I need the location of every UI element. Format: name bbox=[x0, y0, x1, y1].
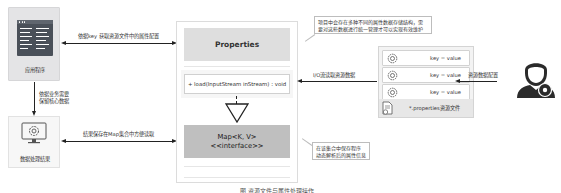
application-label: 应用程序 bbox=[9, 67, 61, 74]
structure-note-line-2: 要对这些数据进行统一管理才可以实现有效维护 bbox=[318, 26, 428, 33]
arrow-head-left bbox=[455, 79, 460, 83]
data-result-box: 数据处理结果 bbox=[8, 116, 60, 168]
config-arrow bbox=[459, 81, 497, 82]
divider bbox=[184, 66, 290, 67]
key-value-text: key = value bbox=[430, 89, 461, 95]
gear-icon bbox=[387, 53, 398, 64]
figure-caption: 图 资源文件与属性处理操作 bbox=[240, 186, 314, 193]
store-in-map-arrow bbox=[65, 141, 173, 142]
arrow-head-left bbox=[297, 79, 302, 83]
application-window-icon bbox=[17, 20, 53, 56]
properties-class-title: Properties bbox=[184, 28, 290, 61]
structure-note-line-1: 项目中会存在多种不同的属性数据存储结构，需 bbox=[318, 19, 428, 26]
divider bbox=[184, 166, 290, 167]
key-lookup-label: 依据key 获取资源文件中的属性配置 bbox=[78, 33, 159, 40]
load-method-box: + load(InputStream inStream) : void bbox=[184, 74, 290, 94]
divider bbox=[184, 177, 290, 178]
io-read-arrow bbox=[301, 81, 377, 82]
retain-core-data-label-1: 依据业务需要 bbox=[39, 91, 69, 98]
map-note-line-1: 在该集合中保存程序 bbox=[316, 145, 366, 152]
user-gear-icon bbox=[515, 56, 557, 98]
config-label: 资源数据配置 bbox=[468, 72, 498, 79]
file-gear-icon bbox=[382, 101, 393, 115]
properties-file-label: *.properties资源文件 bbox=[409, 104, 460, 111]
store-in-map-label: 结果保存在Map集合中方便读取 bbox=[83, 131, 154, 138]
key-value-text: key = value bbox=[430, 72, 461, 78]
map-note-line-2: 动态解析后的属性信息 bbox=[316, 152, 366, 159]
key-value-text: key = value bbox=[430, 55, 461, 61]
map-interface-header: Map<K, V> <<interface>> bbox=[184, 125, 290, 158]
key-value-row: key = value bbox=[382, 84, 470, 100]
map-interface-title: Map<K, V> bbox=[184, 125, 290, 142]
flow-arrow-down bbox=[34, 82, 35, 112]
implements-triangle-icon bbox=[225, 103, 249, 123]
io-read-label: I/O流读取资源数据 bbox=[313, 72, 355, 79]
map-interface-stereotype: <<interface>> bbox=[184, 142, 290, 151]
key-value-row: key = value bbox=[382, 50, 470, 66]
gear-icon bbox=[387, 70, 398, 81]
data-result-label: 数据处理结果 bbox=[9, 156, 61, 163]
arrow-head-left bbox=[61, 139, 66, 143]
monitor-gear-icon bbox=[21, 122, 47, 146]
map-note-callout: 在该集合中保存程序 动态解析后的属性信息 bbox=[312, 142, 370, 160]
arrow-head-left bbox=[61, 41, 66, 45]
callout-pointer bbox=[302, 138, 312, 146]
key-lookup-arrow bbox=[65, 43, 173, 44]
application-box: 应用程序 bbox=[8, 7, 60, 81]
structure-note-callout: 项目中会存在多种不同的属性数据存储结构，需 要对这些数据进行统一管理才可以实现有… bbox=[314, 16, 432, 34]
callout-pointer bbox=[305, 34, 315, 42]
gear-icon bbox=[387, 87, 398, 98]
load-method-signature: + load(InputStream inStream) : void bbox=[185, 75, 289, 93]
retain-core-data-label-2: 保留核心数据 bbox=[39, 98, 69, 105]
properties-file-footer: *.properties资源文件 bbox=[379, 99, 473, 117]
properties-class-header: Properties bbox=[184, 28, 290, 61]
uml-diagram: Properties + load(InputStream inStream) … bbox=[176, 21, 298, 183]
